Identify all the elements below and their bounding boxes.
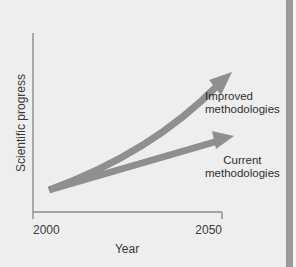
- x-tick-label-2000: 2000: [33, 223, 60, 237]
- x-tick-label-2050: 2050: [195, 223, 222, 237]
- series-line-improved: [49, 85, 218, 190]
- series-arrowhead-current: [212, 131, 234, 149]
- annotation-improved-methodologies: Improved methodologies: [205, 90, 280, 116]
- right-edge-margin: [293, 0, 296, 267]
- annotation-current-line1: Current: [205, 154, 280, 167]
- chart-canvas: 2000 2050 Year Scientific progress: [0, 0, 296, 267]
- annotation-improved-line1: Improved: [205, 90, 280, 103]
- y-axis-title: Scientific progress: [14, 74, 28, 172]
- annotation-current-methodologies: Current methodologies: [205, 154, 280, 180]
- annotation-current-line2: methodologies: [205, 167, 280, 180]
- annotation-improved-line2: methodologies: [205, 103, 280, 116]
- right-edge-band: [286, 0, 293, 267]
- chart-figure: 2000 2050 Year Scientific progress Impro…: [0, 0, 296, 267]
- x-axis-title: Year: [115, 242, 139, 256]
